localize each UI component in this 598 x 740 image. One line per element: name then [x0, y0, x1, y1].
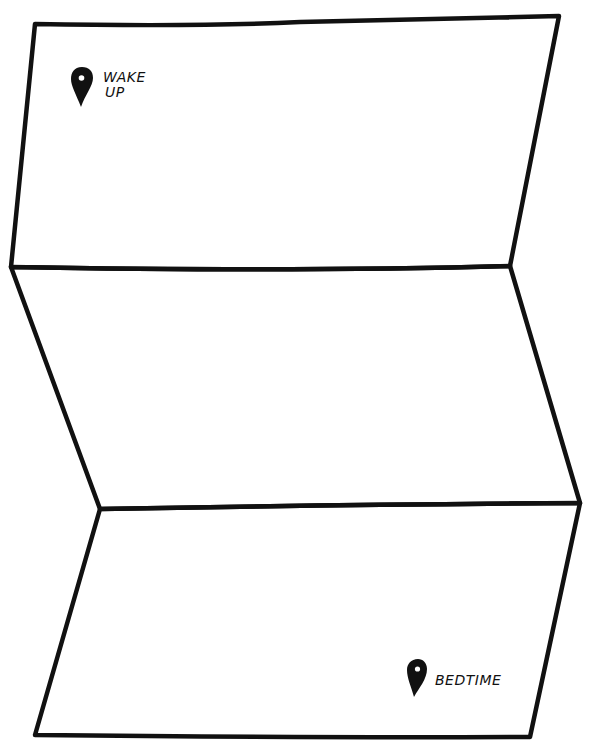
map-pin-icon [406, 658, 428, 698]
wake-up-label: WAKE UP [103, 70, 146, 100]
folded-map [0, 0, 598, 740]
bottom-panel [35, 503, 580, 737]
middle-panel [11, 266, 580, 509]
map-pin-icon [70, 66, 94, 108]
bedtime-label-line1: BEDTIME [435, 673, 501, 688]
wake-up-label-line2: UP [103, 85, 146, 100]
wake-up-label-line1: WAKE [103, 70, 146, 85]
bedtime-label: BEDTIME [435, 673, 501, 688]
top-panel [11, 16, 559, 269]
